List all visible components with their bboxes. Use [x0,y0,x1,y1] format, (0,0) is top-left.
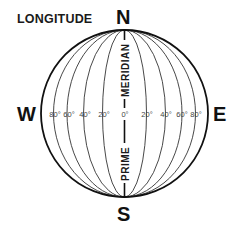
degree-label-west-60: 60° [63,110,74,119]
degree-label-west-20: 20° [98,110,109,119]
degree-label-east-20: 20° [141,110,152,119]
degree-label-east-40: 40° [160,110,171,119]
degree-label-west-80: 80° [49,110,60,119]
degree-labels: 80° 60° 40° 20° 0° 20° 40° 60° 80° [49,110,201,119]
degree-label-center-0: 0° [121,110,128,119]
globe-graphic: MERIDIAN PRIME 80° 60° 40° 20° 0° 20° 40… [0,0,232,233]
longitude-diagram: LONGITUDE N S W E MERIDIAN PRIME 80° 60°… [0,0,232,233]
degree-label-west-40: 40° [79,110,90,119]
degree-label-east-60: 60° [176,110,187,119]
meridian-label: MERIDIAN [120,44,131,97]
degree-label-east-80: 80° [190,110,201,119]
prime-label: PRIME [120,147,131,181]
